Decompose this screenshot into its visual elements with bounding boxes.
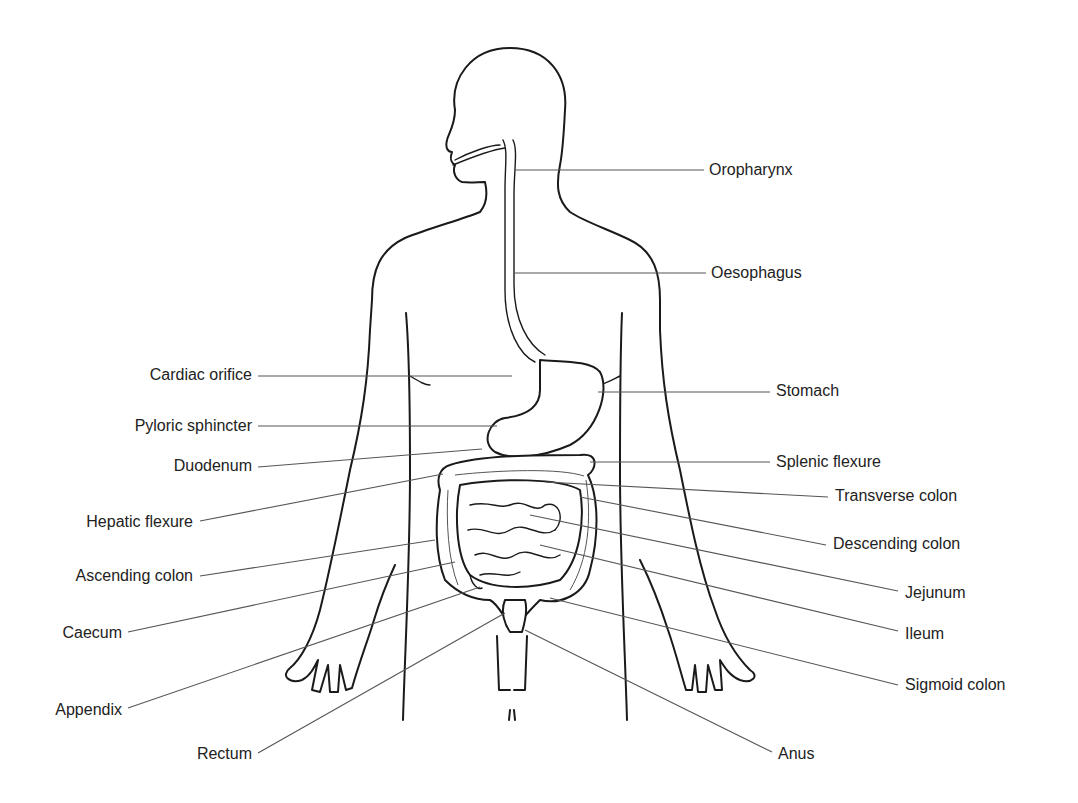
label-caecum: Caecum	[62, 624, 122, 642]
label-jejunum: Jejunum	[905, 584, 965, 602]
leader-line-rectum	[258, 613, 505, 753]
label-rectum: Rectum	[197, 745, 252, 763]
leader-line-duodenum	[258, 449, 482, 467]
leader-line-hepatic-flexure	[200, 474, 443, 521]
label-duodenum: Duodenum	[174, 457, 252, 475]
label-transverse-colon: Transverse colon	[835, 487, 957, 505]
stomach-shape	[488, 360, 604, 457]
label-pyloric-sphincter: Pyloric sphincter	[135, 417, 252, 435]
label-ascending-colon: Ascending colon	[76, 567, 193, 585]
small-intestine	[457, 480, 582, 587]
label-anus: Anus	[778, 745, 814, 763]
label-ileum: Ileum	[905, 625, 944, 643]
label-oesophagus: Oesophagus	[711, 264, 802, 282]
leader-line-ascending-colon	[200, 540, 435, 576]
label-cardiac-orifice: Cardiac orifice	[150, 366, 252, 384]
oesophagus-tube	[503, 140, 545, 362]
leader-line-ileum	[540, 545, 898, 631]
label-oropharynx: Oropharynx	[709, 161, 793, 179]
leader-line-sigmoid-colon	[550, 598, 898, 685]
label-splenic-flexure: Splenic flexure	[776, 453, 881, 471]
leader-line-descending-colon	[580, 497, 826, 545]
rectum-shape	[503, 600, 526, 632]
label-hepatic-flexure: Hepatic flexure	[86, 513, 193, 531]
leader-line-appendix	[128, 587, 480, 708]
label-descending-colon: Descending colon	[833, 535, 960, 553]
label-sigmoid-colon: Sigmoid colon	[905, 676, 1006, 694]
label-appendix: Appendix	[55, 701, 122, 719]
leader-line-anus	[525, 630, 772, 752]
label-stomach: Stomach	[776, 382, 839, 400]
